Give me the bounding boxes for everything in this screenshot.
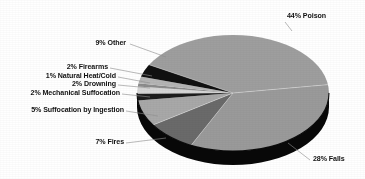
leader-other — [130, 44, 166, 57]
callout-fires: 7% Fires — [95, 138, 124, 147]
leader-poison — [285, 22, 292, 31]
callout-drowning: 2% Drowning — [72, 80, 116, 89]
callout-mechanical-suffocation: 2% Mechanical Suffocation — [31, 89, 120, 98]
callout-falls: 28% Falls — [313, 155, 345, 164]
callout-firearms: 2% Firearms — [67, 63, 108, 72]
callout-other: 9% Other — [95, 39, 126, 48]
callout-poison: 44% Poison — [287, 12, 326, 21]
pie-chart: 44% Poison 28% Falls 9% Other 2% Firearm… — [0, 0, 365, 179]
callout-suffocation-ingestion: 5% Suffocation by Ingestion — [31, 106, 124, 115]
